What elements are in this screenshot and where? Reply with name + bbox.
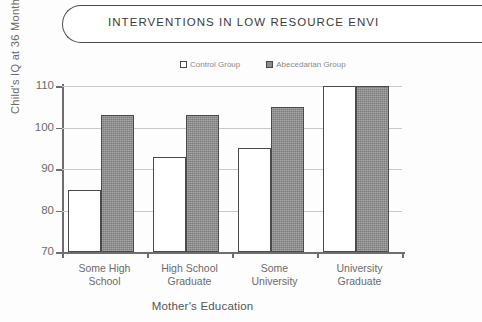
bar-control [68,190,101,252]
bar-group [323,86,389,252]
bar-series-container [62,86,402,252]
x-axis-title: Mother's Education [0,300,405,312]
x-axis-tick-label-line: Graduate [142,275,238,288]
x-axis-tick [317,252,319,258]
chart-legend: Control Group Abecedarian Group [180,60,346,69]
bar-control [238,148,271,252]
bar-abecedarian [186,115,219,252]
legend-label-control: Control Group [190,60,240,69]
x-axis-tick-label: UniversityGraduate [312,262,408,288]
bar-group [238,86,304,252]
y-axis-tick-label: 110 [16,80,54,92]
x-axis-tick-label-line: School [57,275,153,288]
bar-control [323,86,356,252]
x-axis-tick-label-line: University [227,275,323,288]
x-axis-tick [402,252,404,258]
y-axis-tick-label: 90 [16,163,54,175]
legend-item-control-group: Control Group [180,60,240,69]
legend-label-abecedarian: Abecedarian Group [276,60,345,69]
x-axis-tick-label: SomeUniversity [227,262,323,288]
y-axis-title: Child's IQ at 36 Months [9,0,21,114]
legend-swatch-icon-abecedarian [266,61,273,68]
bar-abecedarian [356,86,389,252]
x-axis-tick [62,252,64,258]
x-axis-tick-label-line: High School [142,262,238,275]
x-axis-tick [232,252,234,258]
bar-group [153,86,219,252]
x-axis-tick-label: Some HighSchool [57,262,153,288]
x-axis-tick-label-line: University [312,262,408,275]
legend-swatch-icon-control [180,61,187,68]
legend-item-abecedarian-group: Abecedarian Group [266,60,345,69]
header-title: INTERVENTIONS IN LOW RESOURCE ENVI [108,16,379,28]
bar-group [68,86,134,252]
bar-control [153,157,186,252]
x-axis-tick-label: High SchoolGraduate [142,262,238,288]
bar-abecedarian [271,107,304,252]
x-axis-tick [147,252,149,258]
y-axis-tick-label: 70 [16,246,54,258]
bar-abecedarian [101,115,134,252]
y-axis-tick-label: 100 [16,122,54,134]
x-axis-tick-label-line: Some High [57,262,153,275]
plot-area: Child's IQ at 36 Months [62,86,402,252]
x-axis-tick-label-line: Graduate [312,275,408,288]
x-axis-tick-label-line: Some [227,262,323,275]
y-axis-tick-label: 80 [16,205,54,217]
